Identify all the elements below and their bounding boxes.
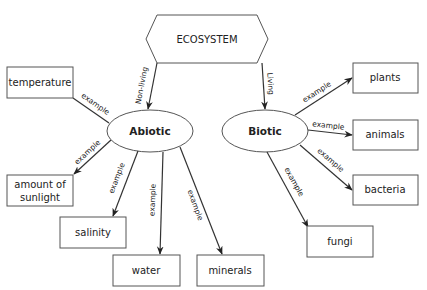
temperature-label: temperature <box>9 77 72 88</box>
edge-living <box>262 63 265 109</box>
edge-label-non-living: Non-living <box>134 66 150 105</box>
box-plants: plants <box>353 63 418 93</box>
box-fungi: fungi <box>307 226 373 257</box>
ecosystem-label: ECOSYSTEM <box>176 34 237 45</box>
edge-label-water: example <box>147 183 157 216</box>
edge-animals <box>308 130 352 135</box>
box-amount-of-sunlight: amount of sunlight <box>7 175 73 206</box>
edge-label-fungi: example <box>282 165 306 198</box>
animals-label: animals <box>365 129 404 140</box>
plants-label: plants <box>370 72 401 83</box>
fungi-label: fungi <box>327 236 352 247</box>
ecosystem-node: ECOSYSTEM <box>146 15 268 63</box>
minerals-label: minerals <box>208 265 251 276</box>
ecosystem-concept-map: ECOSYSTEM Non-living Living Abiotic Biot… <box>0 0 427 290</box>
edge-minerals <box>180 147 222 254</box>
box-animals: animals <box>353 120 418 150</box>
biotic-node: Biotic <box>222 110 308 152</box>
edge-water <box>160 152 163 254</box>
biotic-label: Biotic <box>248 125 282 137</box>
edge-label-bacteria: example <box>316 146 347 174</box>
edge-label-animals: example <box>312 119 345 131</box>
salinity-label: salinity <box>75 227 111 238</box>
edge-non-living <box>148 63 157 109</box>
abiotic-node: Abiotic <box>107 110 193 152</box>
box-minerals: minerals <box>197 255 264 286</box>
sunlight-label-line2: sunlight <box>20 192 60 203</box>
sunlight-label-line1: amount of <box>14 179 66 190</box>
bacteria-label: bacteria <box>364 184 405 195</box>
box-bacteria: bacteria <box>353 175 418 205</box>
edge-label-living: Living <box>265 72 276 95</box>
edge-label-salinity: example <box>107 161 127 195</box>
box-temperature: temperature <box>7 67 73 98</box>
box-salinity: salinity <box>60 217 126 248</box>
box-water: water <box>113 255 180 286</box>
water-label: water <box>132 265 161 276</box>
abiotic-label: Abiotic <box>129 125 170 137</box>
